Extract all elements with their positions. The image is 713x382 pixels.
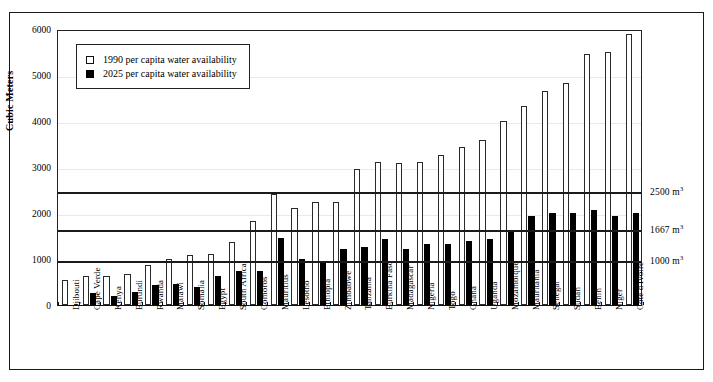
bar-1990 <box>62 280 68 305</box>
bar-1990 <box>375 162 381 305</box>
bar-group <box>539 31 560 305</box>
chart-frame: Cubic Meters 0100020003000400050006000 D… <box>9 12 704 370</box>
bar-1990 <box>626 34 632 305</box>
legend: 1990 per capita water availability 2025 … <box>76 44 250 89</box>
bar-group <box>309 31 330 305</box>
bar-2025 <box>361 247 367 305</box>
bar-1990 <box>124 274 130 305</box>
bar-2025 <box>424 244 430 305</box>
bar-1990 <box>229 242 235 305</box>
bar-group <box>455 31 476 305</box>
bar-2025 <box>508 231 514 305</box>
y-tick-label: 1000 <box>32 255 55 265</box>
bar-group <box>351 31 372 305</box>
legend-item-2025: 2025 per capita water availability <box>86 68 237 79</box>
bar-1990 <box>417 162 423 305</box>
bar-group <box>580 31 601 305</box>
y-tick-label: 0 <box>46 301 55 311</box>
bar-2025 <box>466 241 472 305</box>
threshold-label: 2500 m3 <box>650 185 683 197</box>
bar-1990 <box>291 208 297 305</box>
bar-2025 <box>236 271 242 306</box>
bar-group <box>476 31 497 305</box>
bar-group <box>518 31 539 305</box>
bar-2025 <box>152 285 158 305</box>
y-tick-label: 5000 <box>32 71 55 81</box>
bar-2025 <box>90 293 96 305</box>
bar-1990 <box>521 106 527 305</box>
threshold-line <box>58 230 641 232</box>
bar-1990 <box>605 52 611 305</box>
bar-2025 <box>194 287 200 305</box>
bar-group <box>330 31 351 305</box>
bar-1990 <box>145 265 151 305</box>
bar-2025 <box>257 271 263 305</box>
bar-group <box>601 31 622 305</box>
bar-1990 <box>542 91 548 305</box>
bar-2025 <box>111 296 117 305</box>
legend-swatch-filled-icon <box>86 70 94 78</box>
threshold-line <box>58 192 641 194</box>
bar-1990 <box>396 163 402 305</box>
bar-1990 <box>312 202 318 306</box>
bar-1990 <box>500 121 506 305</box>
bar-group <box>434 31 455 305</box>
bar-group <box>559 31 580 305</box>
bar-2025 <box>173 284 179 305</box>
y-tick-label: 2000 <box>32 209 55 219</box>
threshold-label: 1000 m3 <box>650 254 683 266</box>
y-tick-label: 3000 <box>32 163 55 173</box>
legend-item-1990: 1990 per capita water availability <box>86 54 237 65</box>
bar-2025 <box>633 213 639 305</box>
x-axis-label: Djibouti <box>71 279 81 310</box>
bar-2025 <box>320 263 326 305</box>
bar-2025 <box>340 249 346 305</box>
bar-1990 <box>83 276 89 305</box>
bar-1990 <box>479 140 485 305</box>
x-tick <box>58 302 59 305</box>
bar-1990 <box>584 54 590 305</box>
y-tick-label: 6000 <box>32 25 55 35</box>
y-tick-label: 4000 <box>32 117 55 127</box>
bar-1990 <box>166 259 172 305</box>
bar-1990 <box>333 202 339 306</box>
bar-2025 <box>299 259 305 305</box>
threshold-line <box>58 261 641 263</box>
legend-swatch-open-icon <box>86 56 94 64</box>
bar-group <box>392 31 413 305</box>
bar-2025 <box>549 213 555 305</box>
threshold-label: 1667 m3 <box>650 223 683 235</box>
bar-2025 <box>403 249 409 305</box>
bar-1990 <box>271 194 277 305</box>
bar-1990 <box>354 169 360 305</box>
y-axis-ticks: 0100020003000400050006000 <box>10 30 55 306</box>
bar-group <box>267 31 288 305</box>
bar-1990 <box>459 147 465 305</box>
bar-2025 <box>570 213 576 305</box>
bar-2025 <box>132 292 138 305</box>
bar-group <box>413 31 434 305</box>
bar-1990 <box>250 221 256 305</box>
legend-label-2025: 2025 per capita water availability <box>103 68 237 79</box>
bar-2025 <box>487 239 493 305</box>
legend-label-1990: 1990 per capita water availability <box>103 54 237 65</box>
bar-group <box>288 31 309 305</box>
bar-1990 <box>103 276 109 305</box>
bar-2025 <box>215 276 221 305</box>
bar-2025 <box>278 238 284 305</box>
bar-2025 <box>445 244 451 305</box>
bar-2025 <box>382 239 388 305</box>
bar-1990 <box>563 83 569 305</box>
bar-2025 <box>591 210 597 305</box>
